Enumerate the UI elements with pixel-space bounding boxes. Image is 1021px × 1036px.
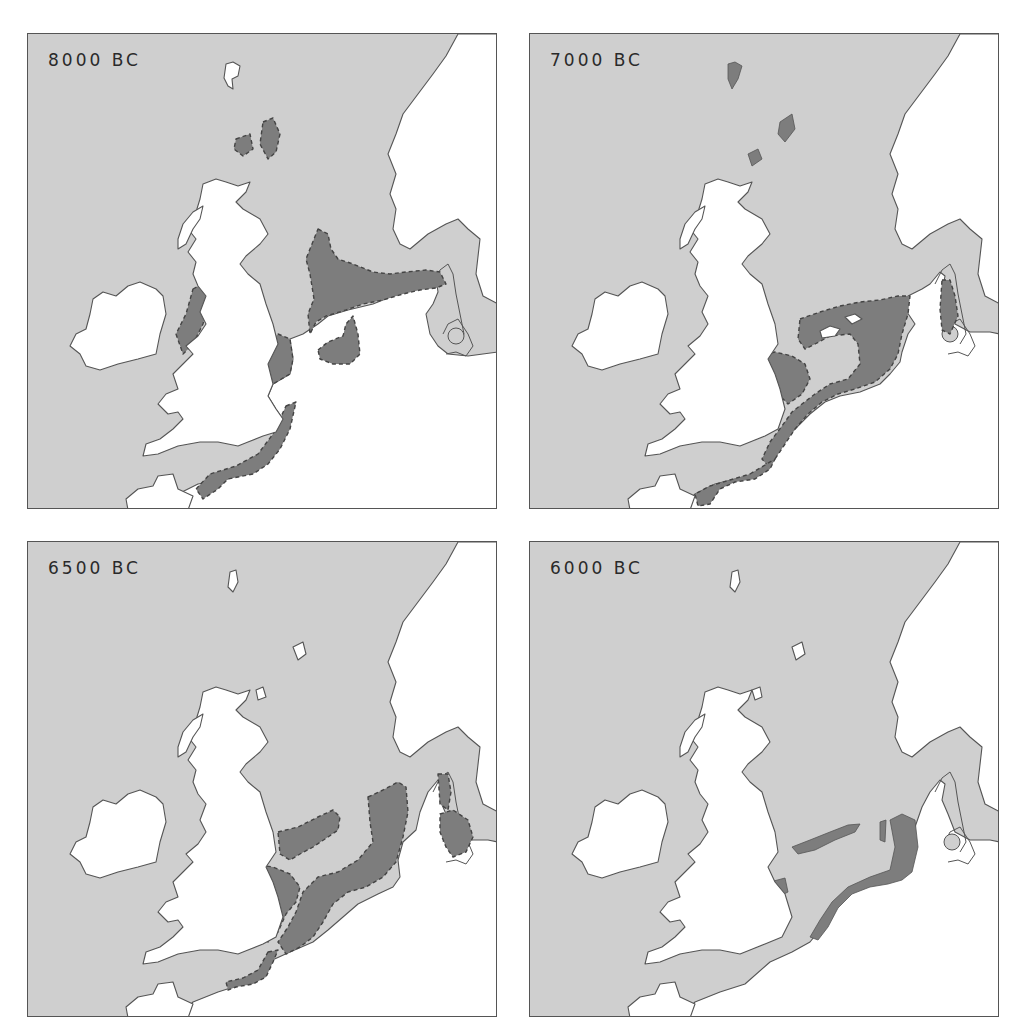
map-6000bc: [530, 542, 999, 1017]
brittany-landmass: [628, 474, 695, 509]
map-8000bc: [28, 34, 497, 509]
ireland-landmass: [70, 790, 166, 878]
orkney-islands: [748, 114, 795, 166]
shetland-island: [730, 570, 740, 592]
orkney-islands: [256, 642, 306, 700]
exposed-land-sliver: [880, 820, 886, 842]
map-panel-6500bc: 6500 BC: [27, 541, 497, 1017]
shetland-island: [224, 62, 240, 89]
exposed-land-orkney: [234, 118, 280, 159]
panel-date-label: 6500 BC: [48, 558, 141, 578]
ireland-landmass: [572, 790, 668, 878]
island-outline: [448, 328, 464, 344]
map-6500bc: [28, 542, 497, 1017]
exposed-land-dogger-bank: [792, 824, 860, 854]
map-panel-8000bc: 8000 BC: [27, 33, 497, 509]
panel-date-label: 7000 BC: [550, 50, 643, 70]
brittany-landmass: [628, 982, 695, 1017]
exposed-land-doggerland-west: [278, 810, 340, 860]
ireland-landmass: [70, 282, 166, 370]
map-panel-7000bc: 7000 BC: [529, 33, 999, 509]
shetland-island: [228, 570, 238, 592]
map-panel-6000bc: 6000 BC: [529, 541, 999, 1017]
norway-landmass: [890, 542, 999, 812]
norway-landmass: [388, 542, 497, 812]
shetland-island: [728, 62, 742, 89]
panel-date-label: 6000 BC: [550, 558, 643, 578]
norway-landmass: [388, 34, 497, 304]
brittany-landmass: [126, 982, 193, 1017]
orkney-islands: [752, 642, 805, 700]
map-7000bc: [530, 34, 999, 509]
brittany-landmass: [126, 474, 193, 509]
island-outline: [944, 834, 960, 850]
panel-date-label: 8000 BC: [48, 50, 141, 70]
ireland-landmass: [572, 282, 668, 370]
norway-landmass: [890, 34, 999, 304]
